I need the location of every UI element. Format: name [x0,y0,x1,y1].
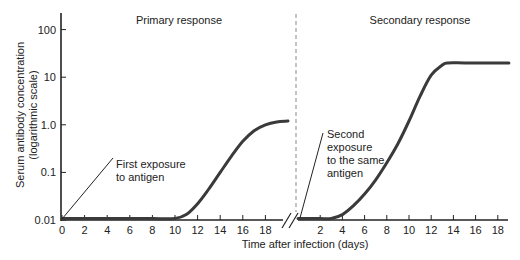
panel-title-secondary: Secondary response [370,14,471,26]
annotation-secondary-line2: exposure [327,141,372,153]
x-tick-label: 0 [59,224,65,236]
antibody-response-chart: Primary response Secondary response Time… [0,0,520,260]
y-tick-label: 10 [44,71,56,83]
x-tick-label: 6 [362,224,368,236]
x-tick-label: 16 [469,224,481,236]
axis-break-mark [282,213,291,228]
x-tick-label: 18 [259,224,271,236]
axis-break-mark [289,213,298,228]
x-tick-label: 16 [237,224,249,236]
annotation-secondary-line3: to the same [327,154,384,166]
annotation-pointer-primary [62,158,113,219]
x-tick-label: 4 [104,224,110,236]
x-tick-label: 10 [169,224,181,236]
x-tick-label: 12 [191,224,203,236]
annotation-pointer-secondary [300,133,323,218]
x-tick-label: 6 [127,224,133,236]
y-axis-label-line1: Serum antibody concentration [14,42,26,188]
annotation-primary-line2: to antigen [116,171,164,183]
y-tick-label: 100 [38,24,56,36]
x-tick-label: 8 [149,224,155,236]
x-tick-label: 14 [214,224,226,236]
x-tick-label: 2 [82,224,88,236]
y-axis-label-line2: (logarithmic scale) [27,70,39,159]
curves [62,63,509,219]
annotation-primary-line1: First exposure [116,158,186,170]
x-tick-label: 18 [492,224,504,236]
x-tick-label: 10 [403,224,415,236]
labels: Primary response Secondary response Time… [14,14,504,250]
x-tick-label: 14 [447,224,459,236]
x-tick-label: 8 [384,224,390,236]
x-axis-label: Time after infection (days) [242,238,369,250]
y-tick-label: 0.01 [35,214,56,226]
x-tick-label: 12 [425,224,437,236]
annotation-secondary-line1: Second [327,128,364,140]
y-tick-label: 1.0 [41,119,56,131]
panel-title-primary: Primary response [136,14,222,26]
x-tick-label: 2 [317,224,323,236]
x-tick-label: 4 [339,224,345,236]
annotation-secondary-line4: antigen [327,167,363,179]
y-tick-label: 0.1 [41,166,56,178]
